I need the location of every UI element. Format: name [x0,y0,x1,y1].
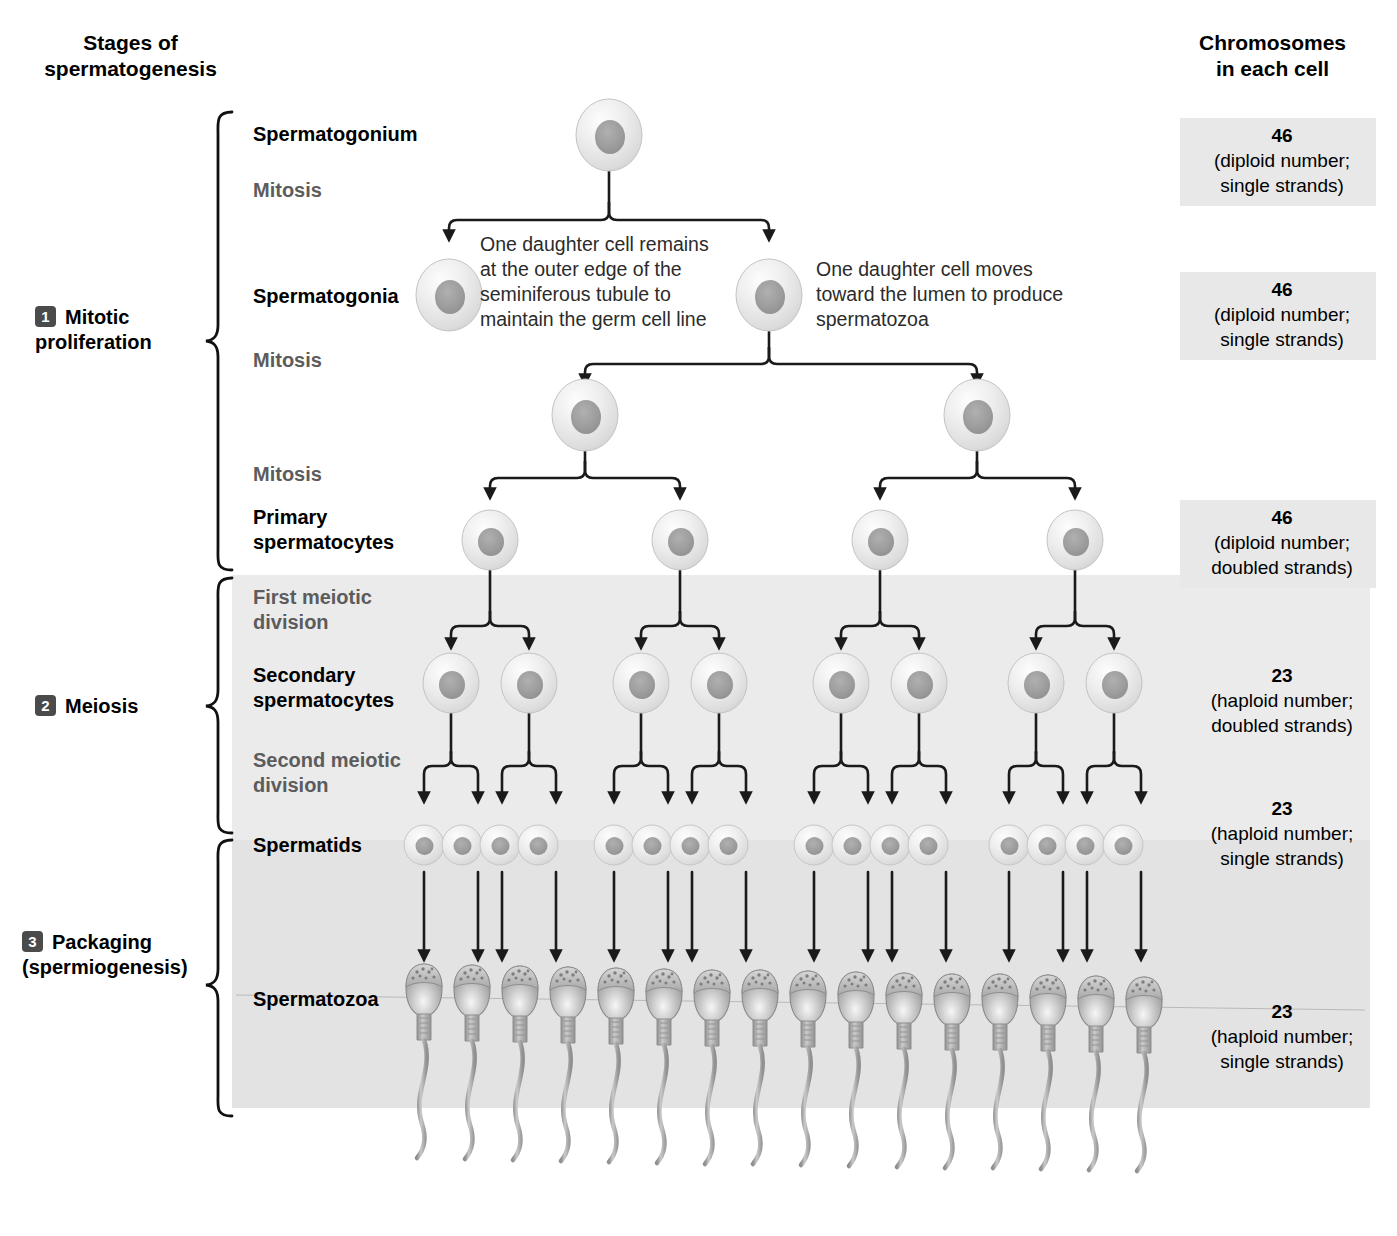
chrom-3-number: 23 [1182,663,1382,688]
row-label-secondary-spermatocytes: Secondary spermatocytes [253,663,394,713]
chrom-2-detail1: (diploid number; [1182,530,1382,555]
cell-spermatogonium [576,99,642,171]
chrom-3-detail2: doubled strands) [1182,713,1382,738]
callout-0-line4: maintain the germ cell line [480,308,707,330]
stages-title-line2: spermatogenesis [44,57,217,80]
cell-spermatogonia-left [416,259,482,331]
chrom-0-detail2: single strands) [1182,173,1382,198]
chrom-1-detail1: (diploid number; [1182,302,1382,327]
cells-primary-spermatocytes [462,510,1103,570]
stage-3-line2: (spermiogenesis) [22,956,188,978]
chrom-2-number: 46 [1182,505,1382,530]
stage-3-line1: Packaging [52,931,152,953]
row-label-mitosis-3: Mitosis [253,462,322,487]
chrom-1-detail2: single strands) [1182,327,1382,352]
chromosome-box-spermatogonia: 46 (diploid number; single strands) [1178,274,1386,355]
stage-badge-3: 3 [22,931,43,952]
cell-mitosis3-left [552,379,618,451]
secondary-spermatocytes-line1: Secondary [253,664,355,686]
primary-spermatocytes-line1: Primary [253,506,328,528]
stage-label-mitotic-proliferation: 1Mitotic proliferation [35,305,215,355]
callout-1-line3: spermatozoa [816,308,929,330]
chrom-5-number: 23 [1182,999,1382,1024]
page-title-stages: Stages of spermatogenesis [18,30,243,82]
row-label-spermatogonium: Spermatogonium [253,122,417,147]
row-label-spermatogonia: Spermatogonia [253,284,399,309]
row-label-first-meiotic-division: First meiotic division [253,585,372,635]
callout-outer-edge: One daughter cell remains at the outer e… [480,232,780,332]
first-meiotic-line2: division [253,611,329,633]
second-meiotic-line2: division [253,774,329,796]
chrom-title-line1: Chromosomes [1199,31,1346,54]
callout-0-line1: One daughter cell remains [480,233,709,255]
stages-title-line1: Stages of [83,31,178,54]
chrom-title-line2: in each cell [1216,57,1329,80]
chrom-0-detail1: (diploid number; [1182,148,1382,173]
row-label-primary-spermatocytes: Primary spermatocytes [253,505,394,555]
chrom-0-number: 46 [1182,123,1382,148]
stage-1-line2: proliferation [35,331,152,353]
chromosome-box-spermatogonium: 46 (diploid number; single strands) [1178,120,1386,201]
stage-1-line1: Mitotic [65,306,129,328]
primary-spermatocytes-line2: spermatocytes [253,531,394,553]
callout-toward-lumen: One daughter cell moves toward the lumen… [816,257,1136,332]
chromosome-box-secondary: 23 (haploid number; doubled strands) [1178,660,1386,741]
callout-0-line2: at the outer edge of the [480,258,682,280]
callout-1-line2: toward the lumen to produce [816,283,1063,305]
chromosome-box-spermatids: 23 (haploid number; single strands) [1178,793,1386,874]
chromosome-box-spermatozoa: 23 (haploid number; single strands) [1178,996,1386,1077]
row-label-mitosis-2: Mitosis [253,348,322,373]
chrom-5-detail2: single strands) [1182,1049,1382,1074]
callout-1-line1: One daughter cell moves [816,258,1033,280]
chrom-4-number: 23 [1182,796,1382,821]
stage-label-packaging: 3Packaging (spermiogenesis) [22,930,222,980]
row-label-spermatozoa: Spermatozoa [253,987,379,1012]
chrom-1-number: 46 [1182,277,1382,302]
first-meiotic-line1: First meiotic [253,586,372,608]
chrom-4-detail2: single strands) [1182,846,1382,871]
callout-0-line3: seminiferous tubule to [480,283,671,305]
row-label-spermatids: Spermatids [253,833,362,858]
stage-badge-1: 1 [35,306,56,327]
stage-2-line1: Meiosis [65,695,138,717]
page-title-chromosomes: Chromosomes in each cell [1160,30,1385,82]
chromosome-box-primary: 46 (diploid number; doubled strands) [1178,502,1386,583]
chrom-5-detail1: (haploid number; [1182,1024,1382,1049]
stage-badge-2: 2 [35,695,56,716]
cell-mitosis3-right [944,379,1010,451]
second-meiotic-line1: Second meiotic [253,749,401,771]
spermatogenesis-diagram: Stages of spermatogenesis Chromosomes in… [0,0,1397,1236]
chrom-4-detail1: (haploid number; [1182,821,1382,846]
chrom-3-detail1: (haploid number; [1182,688,1382,713]
row-label-second-meiotic-division: Second meiotic division [253,748,401,798]
secondary-spermatocytes-line2: spermatocytes [253,689,394,711]
chrom-2-detail2: doubled strands) [1182,555,1382,580]
stage-label-meiosis: 2Meiosis [35,694,215,719]
row-label-mitosis-1: Mitosis [253,178,322,203]
